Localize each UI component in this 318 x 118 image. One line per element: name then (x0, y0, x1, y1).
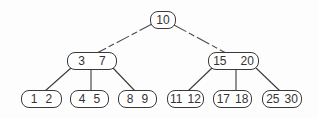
edge-left-to-leaf-1 (45, 68, 71, 91)
leaf-node-5: 17 18 (213, 90, 252, 108)
node-key: 10 (156, 14, 169, 26)
node-key: 4 (79, 93, 86, 105)
leaf-node-1: 1 2 (21, 90, 62, 108)
internal-node-right: 15 20 (208, 52, 259, 70)
edge-right-to-leaf-4 (188, 68, 212, 91)
node-key: 7 (99, 55, 106, 67)
node-key: 8 (127, 93, 134, 105)
internal-node-left: 3 7 (67, 52, 117, 70)
node-key: 5 (94, 93, 101, 105)
node-key: 1 (31, 93, 38, 105)
leaf-node-6: 25 30 (262, 90, 302, 108)
leaf-node-2: 4 5 (70, 90, 109, 108)
node-key: 25 (266, 93, 279, 105)
leaf-node-3: 8 9 (118, 90, 157, 108)
node-key: 3 (78, 55, 85, 67)
node-key: 12 (188, 93, 201, 105)
node-key: 15 (213, 55, 226, 67)
edge-right-to-leaf-6 (256, 68, 280, 91)
edge-root-left (97, 24, 152, 53)
root-node: 10 (150, 11, 176, 29)
node-key: 2 (46, 93, 53, 105)
node-key: 11 (170, 93, 182, 105)
node-key: 20 (241, 55, 254, 67)
node-key: 17 (217, 93, 230, 105)
node-key: 9 (142, 93, 149, 105)
edge-root-right (174, 25, 226, 53)
node-key: 18 (235, 93, 248, 105)
leaf-node-4: 11 12 (167, 90, 204, 108)
edge-left-to-leaf-3 (113, 68, 135, 91)
b-tree-diagram: 10 3 7 15 20 1 2 4 5 8 9 11 12 17 18 25 … (0, 0, 318, 118)
node-key: 30 (285, 93, 298, 105)
